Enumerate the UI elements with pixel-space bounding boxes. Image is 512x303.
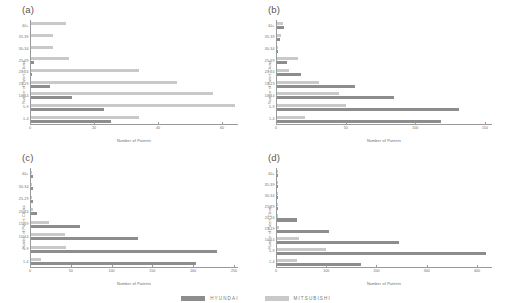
y-tick-label: 10-14: [19, 235, 29, 239]
bar-hyundai: [277, 50, 278, 53]
bar-mitsubishi: [31, 22, 66, 25]
bar-hyundai: [277, 196, 278, 199]
bar-mitsubishi: [277, 259, 297, 262]
bar-group: 25-29: [277, 201, 492, 212]
bar-group: 25-29: [277, 55, 492, 67]
bar-hyundai: [31, 61, 34, 64]
panel-a: (a) Number of Patent Claims 1-45-910-141…: [0, 2, 250, 147]
bar-mitsubishi: [31, 221, 49, 224]
y-tick-label: 10-14: [19, 94, 29, 98]
bar-hyundai: [277, 38, 280, 41]
x-tick-mark: [346, 122, 347, 125]
panel-a-bar-rows: 1-45-910-1415-1920-2425-2930-3435-3940+: [31, 20, 238, 125]
x-tick-label: 100: [323, 269, 329, 273]
x-tick-label: 250: [231, 269, 237, 273]
bar-mitsubishi: [31, 258, 41, 261]
legend-label-hyundai: HYUNDAI: [210, 296, 238, 301]
bar-mitsubishi: [277, 237, 299, 240]
bar-hyundai: [31, 73, 32, 76]
y-tick-label: 20-24: [265, 216, 275, 220]
panel-b-xlabel: Number of Patents: [276, 139, 492, 143]
bar-group: 5-9: [277, 102, 492, 114]
panel-d-plot-area: 1-45-910-1415-1920-2425-2930-3435-3940+: [276, 168, 492, 268]
x-tick-mark: [415, 122, 416, 125]
y-tick-label: 30-34: [19, 47, 29, 51]
x-tick-mark: [30, 122, 31, 125]
bar-group: 30-34: [31, 181, 238, 194]
y-tick-label: 30-34: [265, 47, 275, 51]
panel-c-tag: (c): [22, 152, 34, 163]
panel-c-xticks: 050100150200250: [30, 269, 238, 277]
x-tick-label: 200: [373, 269, 379, 273]
bar-group: 20-24: [277, 67, 492, 79]
bar-mitsubishi: [277, 248, 326, 251]
bar-mitsubishi: [31, 208, 33, 211]
bar-group: 20-24: [31, 206, 238, 219]
x-tick-label: 150: [149, 269, 155, 273]
bar-group: 5-9: [31, 102, 238, 114]
y-tick-label: 15-19: [19, 222, 29, 226]
panel-b-plot: Number of Patent Claims 1-45-910-1415-19…: [246, 16, 500, 147]
bar-group: 25-29: [31, 55, 238, 67]
x-tick-mark: [234, 265, 235, 268]
x-tick-label: 0: [275, 269, 277, 273]
y-tick-label: 15-19: [19, 82, 29, 86]
y-tick-label: 35-39: [265, 183, 275, 187]
x-tick-label: 20: [92, 126, 96, 130]
panel-b-xaxis-line: [276, 124, 492, 125]
bar-mitsubishi: [31, 104, 235, 107]
x-tick-label: 40: [156, 126, 160, 130]
y-tick-label: 30-34: [265, 194, 275, 198]
y-tick-label: 25-29: [265, 205, 275, 209]
bar-group: 35-39: [31, 32, 238, 44]
bar-mitsubishi: [277, 104, 346, 107]
bar-mitsubishi: [31, 34, 53, 37]
panel-c-xlabel: Number of Patents: [30, 282, 238, 286]
bar-hyundai: [277, 218, 297, 221]
bar-mitsubishi: [277, 69, 289, 72]
legend-label-mitsubishi: MITSUBISHI: [294, 296, 331, 301]
y-tick-label: 25-29: [19, 59, 29, 63]
bar-mitsubishi: [31, 69, 139, 72]
x-tick-label: 50: [69, 269, 73, 273]
bar-hyundai: [31, 108, 104, 111]
figure-canvas: (a) Number of Patent Claims 1-45-910-141…: [0, 0, 512, 303]
bar-mitsubishi: [31, 246, 66, 249]
x-tick-mark: [276, 122, 277, 125]
bar-hyundai: [277, 108, 459, 111]
x-tick-label: 0: [275, 126, 277, 130]
y-tick-label: 1-4: [269, 260, 275, 264]
y-tick-label: 10-14: [265, 94, 275, 98]
y-tick-label: 5-9: [23, 247, 29, 251]
x-tick-mark: [193, 265, 194, 268]
legend-item-hyundai[interactable]: HYUNDAI: [181, 296, 238, 302]
y-tick-label: 1-4: [269, 117, 275, 121]
y-tick-label: 1-4: [23, 260, 29, 264]
figure-legend: HYUNDAIMITSUBISHI: [0, 296, 512, 302]
x-tick-label: 400: [474, 269, 480, 273]
panel-c-plot-area: 1-45-910-1415-1920-2425-2930-3440+: [30, 168, 238, 268]
y-tick-label: 10-14: [265, 238, 275, 242]
x-tick-label: 200: [190, 269, 196, 273]
legend-swatch-hyundai: [181, 296, 205, 302]
y-tick-label: 5-9: [269, 105, 275, 109]
bar-hyundai: [277, 263, 361, 266]
panel-c: (c) Number of Patent Claims 1-45-910-141…: [0, 150, 250, 290]
y-tick-label: 30-34: [19, 185, 29, 189]
bar-mitsubishi: [31, 46, 53, 49]
y-tick-label: 1-4: [23, 117, 29, 121]
bar-hyundai: [277, 96, 394, 99]
bar-mitsubishi: [31, 81, 177, 84]
x-tick-label: 100: [109, 269, 115, 273]
bar-mitsubishi: [277, 116, 305, 119]
x-tick-label: 100: [412, 126, 418, 130]
y-tick-label: 40+: [22, 24, 28, 28]
bar-mitsubishi: [277, 46, 278, 49]
panel-d-bar-rows: 1-45-910-1415-1920-2425-2930-3435-3940+: [277, 168, 492, 268]
bar-hyundai: [31, 237, 138, 240]
bar-group: 10-14: [31, 90, 238, 102]
x-tick-mark: [376, 265, 377, 268]
bar-group: 5-9: [31, 243, 238, 256]
bar-mitsubishi: [277, 170, 278, 173]
legend-item-mitsubishi[interactable]: MITSUBISHI: [265, 296, 331, 302]
